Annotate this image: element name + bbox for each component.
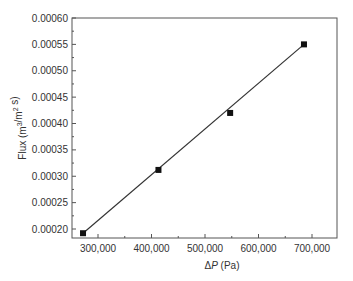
x-axis-label: ΔP (Pa)	[204, 260, 239, 271]
y-tick-label: 0.00035	[32, 144, 69, 155]
data-point-marker	[301, 41, 307, 47]
y-tick-label: 0.00020	[32, 224, 69, 235]
y-tick-label: 0.00050	[32, 65, 69, 76]
x-tick-label: 700,000	[294, 243, 331, 254]
x-tick-label: 400,000	[133, 243, 170, 254]
y-tick-label: 0.00045	[32, 92, 69, 103]
data-series	[80, 41, 307, 236]
x-tick-label: 500,000	[187, 243, 224, 254]
x-axis: 300,000400,000500,000600,000700,000	[80, 234, 331, 254]
data-point-marker	[227, 110, 233, 116]
data-point-marker	[155, 167, 161, 173]
data-point-marker	[80, 230, 86, 236]
y-tick-label: 0.00055	[32, 39, 69, 50]
x-tick-label: 600,000	[240, 243, 277, 254]
y-axis-label: Flux (m3/m2 s)	[9, 96, 28, 159]
fit-line	[83, 44, 304, 233]
y-tick-label: 0.00030	[32, 171, 69, 182]
plot-frame	[72, 18, 337, 238]
y-axis: 0.000200.000250.000300.000350.000400.000…	[32, 13, 76, 235]
chart: 0.000200.000250.000300.000350.000400.000…	[0, 0, 353, 281]
y-tick-label: 0.00040	[32, 118, 69, 129]
y-tick-label: 0.00025	[32, 197, 69, 208]
y-tick-label: 0.00060	[32, 13, 69, 24]
x-tick-label: 300,000	[80, 243, 117, 254]
